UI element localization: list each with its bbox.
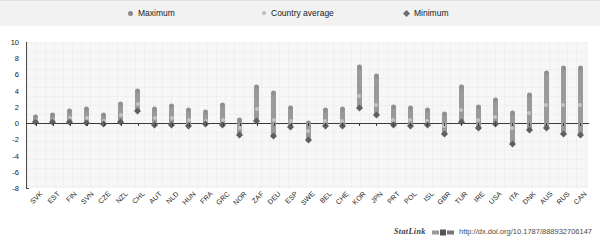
legend-item-minimum: Minimum — [404, 8, 448, 18]
x-tick-mark — [512, 123, 513, 126]
x-tick-mark — [325, 123, 326, 126]
y-tick-label: 0 — [15, 119, 19, 128]
legend-label-maximum: Maximum — [138, 8, 175, 18]
point-maximum — [476, 104, 481, 109]
y-tick-label: -4 — [12, 151, 19, 160]
statlink-label: StatLink — [394, 227, 426, 236]
point-maximum — [118, 102, 123, 107]
bar-range — [254, 87, 259, 122]
point-country-average — [527, 111, 531, 115]
point-maximum — [50, 113, 55, 118]
point-maximum — [561, 65, 566, 70]
point-country-average — [306, 129, 310, 133]
x-axis-tick-label: USA — [488, 190, 503, 205]
x-tick-mark — [580, 123, 581, 126]
x-tick-mark — [274, 123, 275, 126]
legend-marker-maximum-icon — [128, 11, 133, 16]
x-axis-tick-label: PRT — [386, 190, 401, 205]
point-minimum — [134, 107, 141, 114]
bar-range — [374, 76, 379, 115]
legend-marker-minimum-icon — [403, 9, 410, 16]
y-tick-label: 6 — [15, 70, 19, 79]
y-tick-mark — [26, 188, 29, 189]
x-axis-tick-label: FRA — [199, 190, 214, 205]
y-tick-label: -2 — [12, 135, 19, 144]
x-tick-mark — [444, 123, 445, 126]
x-tick-mark — [495, 123, 496, 126]
x-axis-tick-label: ITA — [508, 190, 520, 202]
point-maximum — [67, 108, 72, 113]
point-country-average — [510, 126, 514, 130]
x-axis-tick-label: SWE — [300, 190, 316, 206]
point-country-average — [561, 103, 565, 107]
point-minimum — [560, 131, 567, 138]
x-axis-tick-label: SVN — [79, 190, 94, 205]
x-tick-mark — [257, 123, 258, 126]
chart-legend: Maximum Country average Minimum — [0, 0, 600, 26]
x-tick-mark — [427, 123, 428, 126]
x-tick-mark — [155, 123, 156, 126]
x-axis-tick-label: HUN — [181, 190, 197, 206]
point-country-average — [476, 118, 480, 122]
y-tick-label: 10 — [11, 38, 19, 47]
point-country-average — [238, 126, 242, 130]
plot-gridlines — [27, 42, 588, 188]
x-axis-tick-label: SVK — [28, 190, 43, 205]
point-maximum — [493, 98, 498, 103]
x-axis-tick-label: EST — [46, 190, 61, 205]
x-axis-tick-label: RUS — [556, 190, 572, 206]
legend-label-country-average: Country average — [271, 8, 334, 18]
x-axis-tick-label: CAN — [573, 190, 589, 206]
x-tick-mark — [223, 123, 224, 126]
x-axis-tick-label: GRC — [215, 190, 231, 206]
x-tick-mark — [104, 123, 105, 126]
point-country-average — [578, 103, 582, 107]
point-maximum — [408, 105, 413, 110]
x-tick-mark — [410, 123, 411, 126]
x-axis-tick-label: JPN — [370, 190, 385, 205]
point-maximum — [391, 104, 396, 109]
x-tick-mark — [393, 123, 394, 126]
point-minimum — [270, 133, 277, 140]
point-country-average — [170, 116, 174, 120]
x-tick-mark — [121, 123, 122, 126]
x-axis-tick-label: POL — [403, 190, 418, 205]
x-tick-mark — [87, 123, 88, 126]
x-tick-mark — [53, 123, 54, 126]
x-tick-mark — [291, 123, 292, 126]
x-axis-tick-label: CHE — [334, 190, 350, 206]
point-maximum — [271, 91, 276, 96]
x-axis-tick-label: AUS — [539, 190, 554, 205]
point-country-average — [187, 118, 191, 122]
chart-screenshot: Maximum Country average Minimum 1086420-… — [0, 0, 600, 242]
bar-range — [271, 93, 276, 136]
y-tick-label: -8 — [12, 184, 19, 193]
x-axis-tick-label: FIN — [64, 190, 77, 203]
x-tick-mark — [359, 123, 360, 126]
x-tick-mark — [461, 123, 462, 126]
x-axis-tick-label: NZL — [114, 190, 129, 205]
x-axis-tick-label: ZAF — [250, 190, 265, 205]
x-tick-mark — [189, 123, 190, 126]
point-country-average — [357, 94, 361, 98]
point-country-average — [459, 108, 463, 112]
bar-range — [357, 67, 362, 108]
x-axis-tick-label: KOR — [351, 190, 367, 206]
point-maximum — [510, 111, 515, 116]
statlink-url: http://dx.doi.org/10.1787/888932706147 — [459, 227, 592, 236]
point-maximum — [374, 74, 379, 79]
bar-range — [544, 73, 549, 128]
point-maximum — [442, 112, 447, 117]
point-country-average — [374, 103, 378, 107]
point-maximum — [186, 108, 191, 113]
point-maximum — [340, 107, 345, 112]
point-country-average — [493, 115, 497, 119]
plot-area — [26, 42, 588, 188]
x-axis-tick-label: DNK — [522, 190, 538, 206]
y-tick-label: -6 — [12, 167, 19, 176]
legend-item-maximum: Maximum — [128, 8, 175, 18]
x-tick-mark — [478, 123, 479, 126]
point-country-average — [136, 102, 140, 106]
x-axis-tick-label: IRE — [473, 190, 486, 203]
x-axis-labels: SVKESTFINSVNCZENZLCHLAUTNLDHUNFRAGRCNORZ… — [26, 190, 588, 224]
